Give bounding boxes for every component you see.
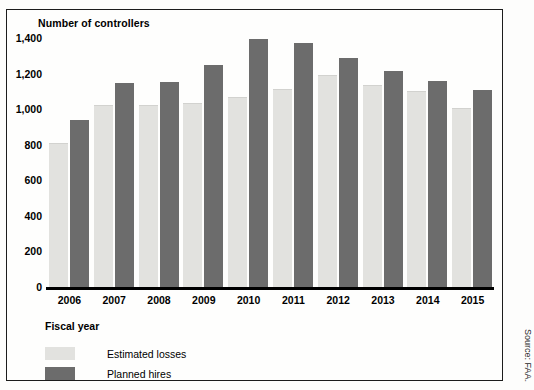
bar-group-2007 [94, 38, 136, 287]
y-axis-tick-0: 0 [36, 281, 42, 293]
chart-legend: Estimated lossesPlanned hires [45, 345, 186, 385]
legend-item-hires: Planned hires [45, 365, 186, 382]
legend-label-losses: Estimated losses [107, 348, 186, 360]
bar-estimated-losses-2007 [94, 105, 113, 287]
bar-group-2009 [183, 38, 225, 287]
x-axis-tick-2012: 2012 [315, 294, 361, 306]
bar-planned-hires-2013 [384, 71, 403, 287]
y-axis-tick-200: 200 [24, 245, 42, 257]
x-axis-tick-labels: 2006200720082009201020112012201320142015 [46, 294, 494, 312]
bar-group-2010 [228, 38, 270, 287]
y-axis-tick-1000: 1,000 [16, 103, 42, 115]
y-axis-tick-1200: 1,200 [16, 68, 42, 80]
bar-group-2013 [363, 38, 405, 287]
page-title: Number of controllers [38, 17, 150, 29]
bar-planned-hires-2015 [473, 90, 492, 287]
bar-estimated-losses-2006 [49, 143, 68, 287]
bar-group-2012 [318, 38, 360, 287]
bar-estimated-losses-2013 [363, 85, 382, 287]
chart-figure: Number of controllers 1,4001,2001,000800… [0, 0, 534, 390]
bar-planned-hires-2014 [428, 81, 447, 287]
bar-estimated-losses-2012 [318, 75, 337, 287]
bar-group-2014 [407, 38, 449, 287]
x-axis-tick-2014: 2014 [405, 294, 451, 306]
source-note: Source: FAA. [523, 329, 533, 382]
x-axis-tick-2015: 2015 [450, 294, 496, 306]
bar-planned-hires-2008 [160, 82, 179, 287]
y-axis-tick-1400: 1,400 [16, 32, 42, 44]
bar-plot-area [46, 38, 494, 287]
bar-planned-hires-2007 [115, 83, 134, 287]
bar-planned-hires-2011 [294, 43, 313, 287]
y-axis-tick-800: 800 [24, 139, 42, 151]
y-axis-tick-400: 400 [24, 210, 42, 222]
x-axis-tick-2008: 2008 [136, 294, 182, 306]
x-axis-tick-2007: 2007 [91, 294, 137, 306]
bar-estimated-losses-2011 [273, 89, 292, 287]
y-axis-tick-labels: 1,4001,2001,0008006004002000 [0, 0, 42, 390]
bar-planned-hires-2009 [204, 65, 223, 287]
bar-estimated-losses-2014 [407, 91, 426, 287]
legend-swatch-hires [45, 367, 75, 380]
x-axis-tick-2013: 2013 [360, 294, 406, 306]
x-axis-line [46, 287, 494, 290]
bar-planned-hires-2010 [249, 39, 268, 287]
bar-planned-hires-2006 [70, 120, 89, 287]
bar-estimated-losses-2010 [228, 97, 247, 287]
x-axis-tick-2006: 2006 [46, 294, 92, 306]
y-axis-tick-600: 600 [24, 174, 42, 186]
bar-group-2011 [273, 38, 315, 287]
legend-swatch-losses [45, 347, 75, 360]
bar-group-2015 [452, 38, 494, 287]
x-axis-title: Fiscal year [45, 320, 99, 332]
bar-estimated-losses-2015 [452, 108, 471, 287]
bar-group-2006 [49, 38, 91, 287]
x-axis-tick-2009: 2009 [181, 294, 227, 306]
legend-label-hires: Planned hires [107, 368, 171, 380]
x-axis-tick-2010: 2010 [226, 294, 272, 306]
bar-estimated-losses-2009 [183, 103, 202, 287]
bar-estimated-losses-2008 [139, 105, 158, 287]
x-axis-tick-2011: 2011 [270, 294, 316, 306]
bar-planned-hires-2012 [339, 58, 358, 287]
legend-item-losses: Estimated losses [45, 345, 186, 362]
bar-group-2008 [139, 38, 181, 287]
